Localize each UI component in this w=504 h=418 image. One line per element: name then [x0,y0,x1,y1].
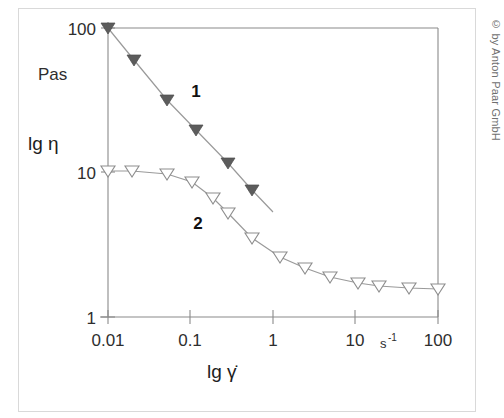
figure-root: 100 10 1 0.01 0.1 1 10 100 s -1 Pas lg η… [0,0,504,418]
y-axis-title: lg η [28,133,59,154]
series-2-markers [101,166,445,295]
x-tick-label-100: 100 [424,331,452,350]
curve-label-1: 1 [191,82,200,101]
x-tick-label-10: 10 [346,331,365,350]
y-axis-unit: Pas [38,65,67,84]
x-tick-label-0.01: 0.01 [91,331,124,350]
x-axis-unit-exponent: -1 [388,332,397,343]
chart-plot-area: 100 10 1 0.01 0.1 1 10 100 s -1 Pas lg η… [0,0,504,418]
x-tick-label-0.1: 0.1 [178,331,202,350]
x-axis-unit-base: s [380,336,387,351]
y-tick-label-10: 10 [77,164,96,183]
y-tick-label-1: 1 [87,309,96,328]
curve-label-2: 2 [193,214,202,233]
copyright-notice: © by Anton Paar GmbH [484,18,502,141]
chart-svg: 100 10 1 0.01 0.1 1 10 100 s -1 Pas lg η… [0,0,504,418]
x-tick-label-1: 1 [268,331,277,350]
x-axis-title: lg γ̇ [207,361,238,382]
series-2-line [108,171,438,289]
y-tick-label-100: 100 [68,20,96,39]
